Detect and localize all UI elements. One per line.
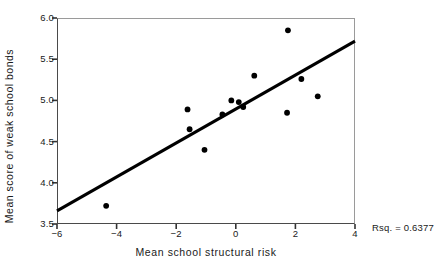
y-axis-title: Mean score of weak school bonds [3, 49, 15, 223]
y-axis-title-wrap: Mean score of weak school bonds [0, 0, 18, 272]
x-tick-label: 4 [340, 229, 370, 239]
x-axis-title: Mean school structural risk [57, 246, 355, 258]
data-point [251, 73, 257, 79]
y-tick-label: 5.5 [20, 54, 54, 64]
data-point [219, 112, 225, 118]
fit-line [57, 41, 355, 211]
x-tick-label: 2 [280, 229, 310, 239]
data-point [228, 98, 234, 104]
y-tick-label: 4.0 [20, 178, 54, 188]
plot-data-layer [57, 18, 355, 224]
data-point [103, 203, 109, 209]
y-tick-label: 6.0 [20, 13, 54, 23]
rsq-annotation: Rsq. = 0.6377 [372, 222, 434, 233]
data-point [285, 27, 291, 33]
x-tick-label: −6 [42, 229, 72, 239]
data-point [240, 104, 246, 110]
data-point [202, 147, 208, 153]
data-point [284, 110, 290, 116]
data-points-group [103, 27, 320, 208]
x-tick-label: 0 [221, 229, 251, 239]
y-tick-label: 4.5 [20, 137, 54, 147]
scatter-plot-figure: 6.05.55.04.54.03.5 −6−4−2024 Mean school… [0, 0, 446, 272]
y-tick-label: 3.5 [20, 219, 54, 229]
y-tick-label: 5.0 [20, 95, 54, 105]
data-point [298, 76, 304, 82]
data-point [315, 93, 321, 99]
data-point [236, 99, 242, 105]
data-point [187, 126, 193, 132]
x-tick-label: −4 [102, 229, 132, 239]
x-tick-label: −2 [161, 229, 191, 239]
data-point [185, 107, 191, 113]
regression-line [57, 41, 355, 211]
